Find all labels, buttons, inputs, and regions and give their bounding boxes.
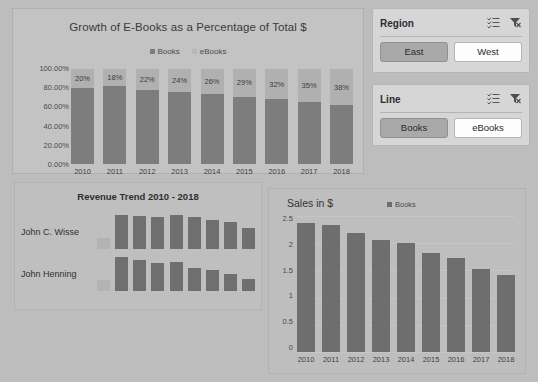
stacked-segment-books — [201, 94, 224, 164]
slicer-region[interactable]: Region — [372, 8, 530, 73]
y-tick: 20.00% — [44, 141, 69, 150]
slicer-item-ebooks[interactable]: eBooks — [454, 118, 522, 138]
y-tick: 2 — [289, 240, 293, 249]
x-tick: 2016 — [447, 355, 465, 364]
sparkline-bar — [115, 215, 128, 249]
stacked-bar-column: 26% — [201, 69, 224, 164]
slicer-item-books[interactable]: Books — [380, 118, 448, 138]
stacked-segment-ebooks: 22% — [136, 69, 159, 90]
stacked-segment-ebooks: 20% — [71, 69, 94, 88]
revenue-trend-panel[interactable]: Revenue Trend 2010 - 2018 John C. Wisse … — [14, 182, 262, 310]
x-tick: 2010 — [297, 355, 315, 364]
sales-bar — [422, 253, 440, 352]
slicer-region-items: East West — [380, 42, 522, 62]
slicer-region-title: Region — [380, 18, 414, 29]
stacked-bar-column: 20% — [71, 69, 94, 164]
legend-label-ebooks: eBooks — [200, 47, 227, 56]
stacked-segment-ebooks: 35% — [298, 69, 321, 102]
x-tick: 2012 — [136, 167, 159, 176]
slicer-line[interactable]: Line — [372, 84, 530, 146]
y-tick: 60.00% — [44, 102, 69, 111]
revenue-trend-title: Revenue Trend 2010 - 2018 — [15, 191, 261, 202]
stacked-segment-ebooks: 18% — [103, 69, 126, 86]
multi-select-icon[interactable] — [487, 14, 500, 32]
stacked-chart-plot-area: 20%18%22%24%26%29%32%35%38% — [71, 69, 353, 164]
sales-bar — [372, 240, 390, 352]
y-tick: 0.5 — [283, 317, 293, 326]
x-tick: 2014 — [201, 167, 224, 176]
stacked-segment-books — [233, 97, 256, 164]
y-tick: 0 — [289, 343, 293, 352]
slicer-line-divider — [380, 112, 522, 113]
stacked-chart-title: Growth of E-Books as a Percentage of Tot… — [13, 21, 363, 33]
slicer-line-title: Line — [380, 94, 401, 105]
stacked-segment-ebooks: 32% — [265, 69, 288, 99]
sales-chart-y-axis: 2.5 2 1.5 1 0.5 0 — [271, 214, 293, 352]
stacked-segment-books — [265, 99, 288, 164]
sparkline-bar — [151, 217, 164, 249]
stacked-bar-column: 38% — [330, 69, 353, 164]
x-tick: 2011 — [322, 355, 340, 364]
sparkline-bar — [97, 280, 110, 291]
x-tick: 2017 — [472, 355, 490, 364]
sparkline-bar — [115, 257, 128, 291]
clear-filter-icon[interactable] — [509, 14, 522, 32]
x-tick: 2015 — [233, 167, 256, 176]
sparkline-bar — [224, 222, 237, 249]
sales-bar — [397, 243, 415, 352]
gridline — [297, 352, 515, 353]
x-tick: 2013 — [168, 167, 191, 176]
sales-chart-panel[interactable]: Sales in $ Books 2.5 2 1.5 1 0.5 0 20102… — [268, 188, 526, 374]
stacked-segment-books — [136, 90, 159, 164]
y-tick: 0.00% — [48, 160, 69, 169]
stacked-chart-panel[interactable]: Growth of E-Books as a Percentage of Tot… — [12, 8, 364, 174]
stacked-bar-column: 29% — [233, 69, 256, 164]
x-tick: 2011 — [103, 167, 126, 176]
sparkline-bar — [133, 260, 146, 291]
stacked-bar-column: 22% — [136, 69, 159, 164]
sparkline-bar — [242, 228, 255, 249]
sparkline-bar — [224, 274, 237, 291]
sales-bar — [347, 233, 365, 352]
sales-bar — [497, 275, 515, 352]
stacked-segment-ebooks: 26% — [201, 69, 224, 94]
stacked-bar-column: 32% — [265, 69, 288, 164]
sparkline-bar — [188, 268, 201, 291]
slicer-item-west[interactable]: West — [454, 42, 522, 62]
y-tick: 1.5 — [283, 266, 293, 275]
slicer-line-items: Books eBooks — [380, 118, 522, 138]
stacked-bar-column: 35% — [298, 69, 321, 164]
sparkline-john-c-wisse — [97, 215, 255, 249]
stacked-chart-x-axis: 201020112012201320142015201620172018 — [71, 167, 353, 176]
trend-row: John Henning — [19, 255, 255, 293]
x-tick: 2010 — [71, 167, 94, 176]
x-tick: 2018 — [330, 167, 353, 176]
multi-select-icon[interactable] — [487, 90, 500, 108]
slicer-item-east[interactable]: East — [380, 42, 448, 62]
stacked-segment-books — [103, 86, 126, 164]
sales-bar — [472, 269, 490, 352]
y-tick: 100.00% — [39, 64, 69, 73]
stacked-segment-books — [330, 105, 353, 164]
sparkline-bar — [151, 263, 164, 291]
stacked-segment-ebooks: 38% — [330, 69, 353, 105]
stacked-segment-ebooks: 24% — [168, 69, 191, 92]
sparkline-bar — [188, 217, 201, 249]
legend-swatch-books-icon — [150, 49, 155, 54]
y-tick: 1 — [289, 291, 293, 300]
sales-bar — [322, 225, 340, 352]
sparkline-bar — [206, 270, 219, 291]
y-tick: 40.00% — [44, 122, 69, 131]
legend-label-books: Books — [158, 47, 180, 56]
slicer-region-divider — [380, 36, 522, 37]
stacked-segment-ebooks: 29% — [233, 69, 256, 97]
sparkline-bar — [242, 279, 255, 291]
clear-filter-icon[interactable] — [509, 90, 522, 108]
sparkline-bar — [206, 220, 219, 249]
x-tick: 2013 — [372, 355, 390, 364]
sparkline-bar — [97, 238, 110, 249]
sales-chart-plot-area — [297, 216, 515, 352]
stacked-bar-column: 24% — [168, 69, 191, 164]
slicer-region-icons — [487, 14, 522, 32]
legend-label-books: Books — [395, 200, 416, 209]
